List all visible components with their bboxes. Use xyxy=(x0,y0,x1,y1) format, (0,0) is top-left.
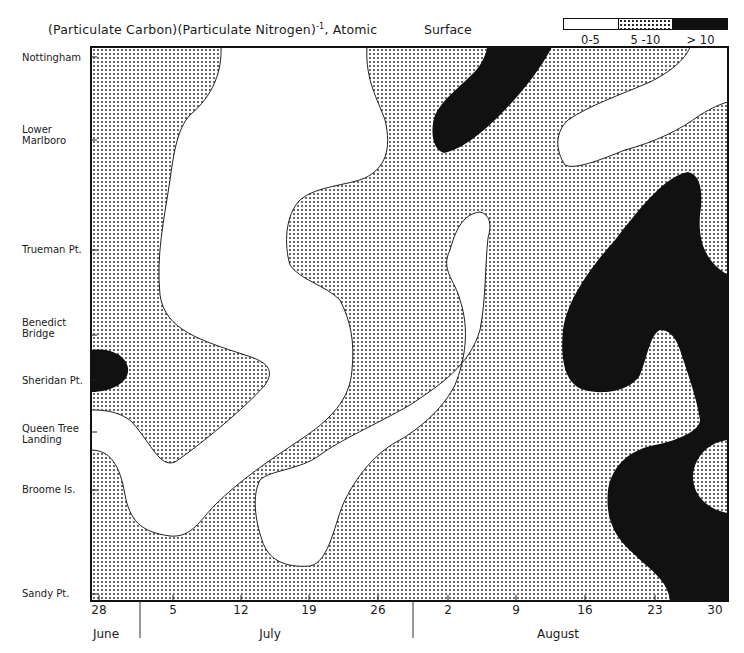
x-label: 28 xyxy=(91,603,106,617)
x-label: 16 xyxy=(577,603,592,617)
x-label: 9 xyxy=(512,603,520,617)
y-label-queen-tree-landing: Queen Tree Landing xyxy=(22,423,79,445)
y-label-lower-marlboro: Lower Marlboro xyxy=(22,124,66,146)
contour-plot xyxy=(0,0,744,653)
month-label-august: August xyxy=(537,627,579,641)
x-label: 30 xyxy=(707,603,722,617)
x-label: 23 xyxy=(647,603,662,617)
month-label-july: July xyxy=(259,627,281,641)
x-label: 2 xyxy=(444,603,452,617)
y-label-sheridan-pt: Sheridan Pt. xyxy=(22,375,83,386)
x-label: 19 xyxy=(301,603,316,617)
y-label-benedict-bridge: Benedict Bridge xyxy=(22,317,66,339)
y-label-trueman-pt: Trueman Pt. xyxy=(22,244,82,255)
month-label-june: June xyxy=(93,627,119,641)
x-label: 26 xyxy=(370,603,385,617)
y-label-sandy-pt: Sandy Pt. xyxy=(22,588,69,599)
y-label-nottingham: Nottingham xyxy=(22,52,81,63)
y-label-broome-is: Broome Is. xyxy=(22,484,75,495)
x-label: 12 xyxy=(233,603,248,617)
x-label: 5 xyxy=(169,603,177,617)
